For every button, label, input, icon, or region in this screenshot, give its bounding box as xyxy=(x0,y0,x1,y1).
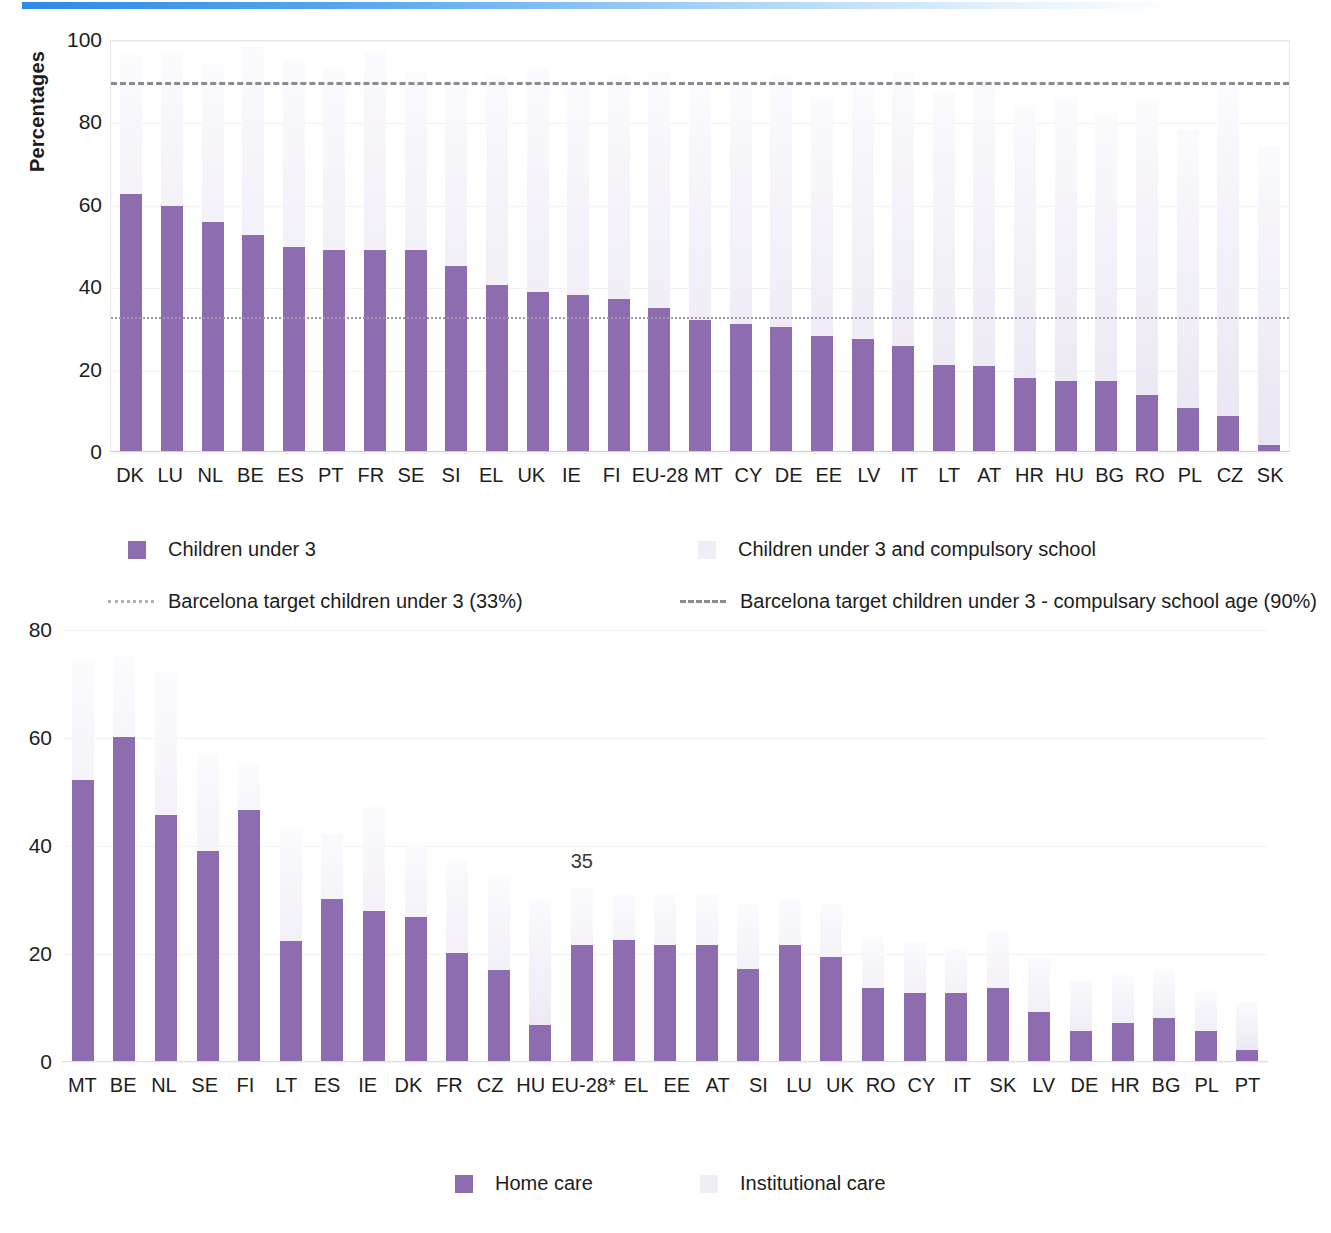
bar-group[interactable] xyxy=(111,41,152,451)
bar-group[interactable] xyxy=(1127,41,1168,451)
bar-group[interactable] xyxy=(680,41,721,451)
bar-group[interactable] xyxy=(558,41,599,451)
bar-group[interactable] xyxy=(977,630,1019,1061)
x-tick-label: FI xyxy=(225,1074,266,1097)
bar-group[interactable] xyxy=(1249,41,1290,451)
legend-item-children-under-3-and-compulsory-school[interactable]: Children under 3 and compulsory school xyxy=(698,538,1096,561)
bar-group[interactable] xyxy=(520,630,562,1061)
bar-group[interactable] xyxy=(1227,630,1269,1061)
bar-group[interactable] xyxy=(436,630,478,1061)
bar-group[interactable] xyxy=(639,41,680,451)
bar-dark xyxy=(1055,381,1077,451)
bar-group[interactable] xyxy=(769,630,811,1061)
bar-dark xyxy=(238,810,260,1061)
bar-dark xyxy=(529,1025,551,1061)
bar-group[interactable] xyxy=(270,630,312,1061)
bar-group[interactable] xyxy=(353,630,395,1061)
bar-group[interactable] xyxy=(436,41,477,451)
bar-group[interactable] xyxy=(924,41,965,451)
bar-group[interactable] xyxy=(761,41,802,451)
bar-group[interactable] xyxy=(599,41,640,451)
bar-group[interactable] xyxy=(964,41,1005,451)
bar-group[interactable] xyxy=(1005,41,1046,451)
y-tick-label: 20 xyxy=(79,358,102,382)
legend-item-home-care[interactable]: Home care xyxy=(455,1172,593,1195)
x-tick-label: DK xyxy=(110,464,150,487)
bar-group[interactable] xyxy=(561,630,603,1061)
bar-group[interactable] xyxy=(228,630,270,1061)
legend-label: Home care xyxy=(495,1172,593,1195)
legend-item-barcelona-target-90[interactable]: Barcelona target children under 3 - comp… xyxy=(680,590,1317,613)
bar-dark xyxy=(1095,381,1117,451)
bar-dark xyxy=(987,988,1009,1061)
x-tick-label: SK xyxy=(983,1074,1024,1097)
bar-group[interactable] xyxy=(192,41,233,451)
bar-group[interactable] xyxy=(1167,41,1208,451)
legend-item-barcelona-target-33[interactable]: Barcelona target children under 3 (33%) xyxy=(108,590,523,613)
x-tick-label: HU xyxy=(510,1074,551,1097)
bar-dark xyxy=(202,222,224,451)
bar-group[interactable] xyxy=(802,41,843,451)
bar-group[interactable] xyxy=(811,630,853,1061)
chart-long-term-care: 020406080 35 MTBENLSEFILTESIEDKFRCZHUEU-… xyxy=(0,612,1331,1132)
bar-group[interactable] xyxy=(62,630,104,1061)
bar-group[interactable] xyxy=(104,630,146,1061)
bar-dark xyxy=(779,945,801,1061)
legend-item-children-under-3[interactable]: Children under 3 xyxy=(128,538,316,561)
bar-dark xyxy=(486,285,508,451)
bar-group[interactable] xyxy=(728,630,770,1061)
bar-group[interactable] xyxy=(1102,630,1144,1061)
gridline xyxy=(62,1062,1268,1063)
bar-dark xyxy=(242,235,264,451)
bar-group[interactable] xyxy=(395,630,437,1061)
bar-group[interactable] xyxy=(935,630,977,1061)
bar-group[interactable] xyxy=(1143,630,1185,1061)
bar-group[interactable] xyxy=(395,41,436,451)
bar-dark xyxy=(571,945,593,1061)
bar-dark xyxy=(654,945,676,1061)
bar-dark xyxy=(363,911,385,1061)
chart1-target-33-line xyxy=(111,317,1289,319)
bar-group[interactable] xyxy=(312,630,354,1061)
x-tick-label: NL xyxy=(190,464,230,487)
bar-dark xyxy=(648,308,670,451)
legend-label: Children under 3 and compulsory school xyxy=(738,538,1096,561)
bar-group[interactable] xyxy=(644,630,686,1061)
x-tick-label: MT xyxy=(62,1074,103,1097)
bar-group[interactable] xyxy=(894,630,936,1061)
bar-group[interactable] xyxy=(1045,41,1086,451)
bar-group[interactable] xyxy=(314,41,355,451)
y-tick-label: 100 xyxy=(67,28,102,52)
bar-group[interactable] xyxy=(152,41,193,451)
bar-group[interactable] xyxy=(145,630,187,1061)
bar-group[interactable] xyxy=(477,41,518,451)
x-tick-label: DK xyxy=(388,1074,429,1097)
bar-group[interactable] xyxy=(603,630,645,1061)
bar-group[interactable] xyxy=(233,41,274,451)
chart2-bars xyxy=(62,630,1268,1061)
bar-group[interactable] xyxy=(720,41,761,451)
bar-group[interactable] xyxy=(478,630,520,1061)
chart-page: Percentages 020406080100 DKLUNLBEESPTFRS… xyxy=(0,0,1331,1233)
bar-group[interactable] xyxy=(517,41,558,451)
bar-group[interactable] xyxy=(852,630,894,1061)
bar-group[interactable] xyxy=(1019,630,1061,1061)
bar-group[interactable] xyxy=(842,41,883,451)
y-tick-label: 60 xyxy=(79,193,102,217)
bar-group[interactable] xyxy=(686,630,728,1061)
bar-dark xyxy=(1153,1018,1175,1061)
bar-group[interactable] xyxy=(883,41,924,451)
bar-group[interactable] xyxy=(187,630,229,1061)
bar-group[interactable] xyxy=(355,41,396,451)
legend-item-institutional-care[interactable]: Institutional care xyxy=(700,1172,886,1195)
bar-dark xyxy=(405,250,427,451)
bar-group[interactable] xyxy=(1086,41,1127,451)
bar-group[interactable] xyxy=(1208,41,1249,451)
bar-dark xyxy=(120,194,142,452)
chart2-plot-area: 35 xyxy=(62,630,1268,1062)
bar-group[interactable] xyxy=(1060,630,1102,1061)
x-tick-label: ES xyxy=(307,1074,348,1097)
bar-group[interactable] xyxy=(1185,630,1227,1061)
bar-group[interactable] xyxy=(274,41,315,451)
bar-dark xyxy=(770,327,792,451)
